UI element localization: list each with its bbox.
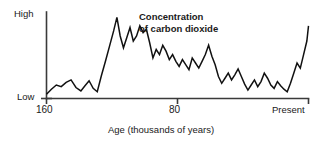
chart-title-line-2: of carbon dioxide	[139, 23, 218, 35]
y-axis-label-high: High	[14, 9, 34, 19]
x-axis-tick-label-160: 160	[36, 105, 53, 115]
y-axis-label-low: Low	[17, 92, 34, 102]
x-axis-tick-label-80: 80	[169, 105, 180, 115]
x-axis-tick-label-present: Present	[272, 105, 305, 115]
co2-concentration-chart: High Low 160 80 Present Concentration of…	[0, 0, 322, 145]
x-axis-caption: Age (thousands of years)	[0, 125, 322, 135]
chart-title-line-1: Concentration	[139, 11, 218, 23]
chart-title: Concentration of carbon dioxide	[139, 11, 218, 35]
